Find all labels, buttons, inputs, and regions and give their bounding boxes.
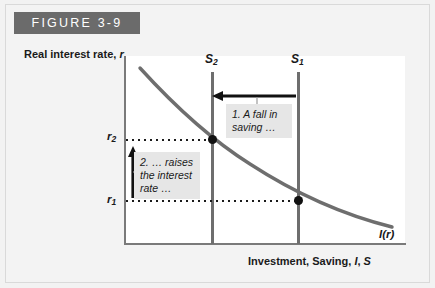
investment-curve-label: I(r) (379, 228, 394, 240)
guide-line-r2 (126, 139, 214, 141)
saving-label-s2-base: S (205, 52, 213, 66)
x-axis-title-symbol-s: S (364, 255, 371, 267)
x-axis-line (124, 243, 406, 245)
y-axis-title-text: Real interest rate, (24, 48, 119, 60)
x-axis-title-text: Investment, Saving, (248, 255, 354, 267)
figure-number-label: FIGURE 3-9 (14, 12, 140, 34)
plot-area (125, 56, 405, 243)
saving-label-s1-base: S (291, 52, 299, 66)
saving-line-s1 (297, 72, 300, 244)
y-axis-title: Real interest rate, r (24, 48, 124, 60)
rate-label-r2: r2 (107, 130, 116, 144)
saving-line-label-s1: S1 (291, 52, 304, 67)
rate-label-r2-sub: 2 (111, 134, 116, 144)
y-axis-title-symbol: r (119, 48, 123, 60)
equilibrium-point-2 (208, 135, 217, 144)
figure-container: FIGURE 3-9 Real interest rate, r Investm… (0, 0, 435, 288)
guide-line-r1 (126, 200, 300, 202)
y-axis-line (124, 56, 126, 245)
equilibrium-point-1 (294, 196, 303, 205)
callout-fall-in-saving: 1. A fall in saving … (226, 104, 292, 138)
saving-line-label-s2: S2 (205, 52, 218, 67)
x-axis-title: Investment, Saving, I, S (248, 255, 371, 267)
figure-number-banner: FIGURE 3-9 (14, 12, 140, 34)
rate-label-r1-sub: 1 (111, 197, 116, 207)
saving-line-s2 (211, 72, 214, 244)
rate-label-r1: r1 (107, 193, 116, 207)
callout-raises-interest-rate: 2. … raises the interest rate … (134, 152, 200, 199)
saving-label-s2-sub: 2 (213, 57, 218, 67)
saving-label-s1-sub: 1 (299, 57, 304, 67)
